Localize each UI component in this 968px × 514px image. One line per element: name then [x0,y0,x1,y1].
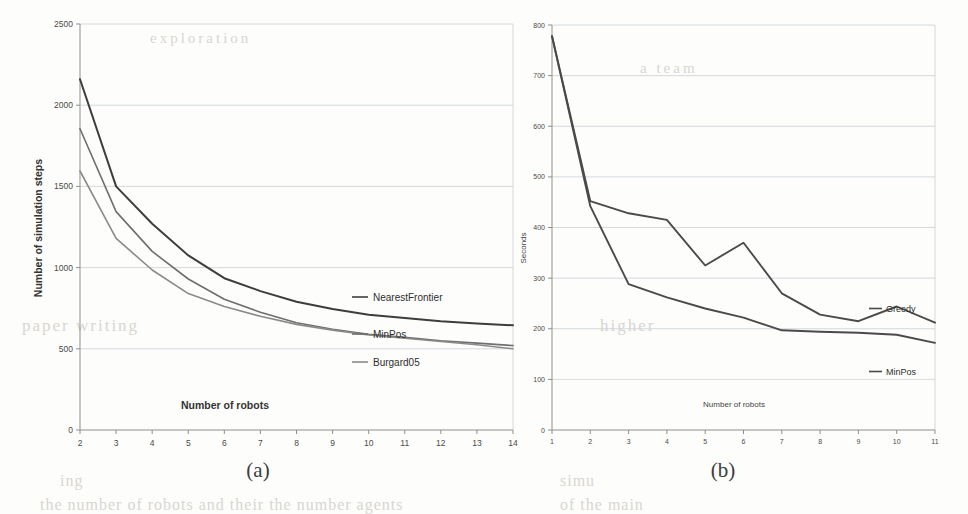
x-tick-label-7: 7 [258,438,263,448]
x-tick-label-7: 7 [780,438,784,445]
x-tick-label-5: 5 [703,438,707,445]
y-tick-label-700: 700 [533,72,545,79]
x-tick-label-3: 3 [114,438,119,448]
x-tick-label-6: 6 [742,438,746,445]
x-tick-label-3: 3 [627,438,631,445]
x-axis-title: Number of robots [703,400,765,409]
caption-a: (a) [228,458,288,483]
x-axis-title: Number of robots [181,399,269,411]
x-tick-label-11: 11 [931,438,938,445]
series-line-nearestfrontier [80,79,513,325]
legend-item-burgard05: Burgard05 [352,357,420,368]
x-tick-label-11: 11 [400,438,409,448]
y-tick-label-600: 600 [533,123,545,130]
caption-b: (b) [693,458,753,483]
x-tick-label-2: 2 [588,438,592,445]
x-tick-label-4: 4 [665,438,669,445]
y-tick-label-800: 800 [533,22,545,29]
y-tick-label-500: 500 [533,173,545,180]
x-tick-label-10: 10 [893,438,901,445]
legend-item-nearestfrontier: NearestFrontier [352,292,443,303]
x-tick-label-8: 8 [294,438,299,448]
x-tick-label-9: 9 [330,438,335,448]
legend-label-nearestfrontier: NearestFrontier [373,292,443,303]
chart-a-canvas: 05001000150020002500234567891011121314Ne… [0,0,520,460]
series-line-greedy-0 [552,36,935,323]
y-tick-label-1500: 1500 [54,181,73,191]
y-axis-title: Number of simulation steps [32,159,44,297]
legend-label-minpos: MinPos [886,367,917,377]
figure-b: 01002003004005006007008001234567891011Gr… [484,0,968,512]
legend-item-minpos: MinPos [352,329,406,340]
y-tick-label-0: 0 [541,427,545,434]
y-tick-label-300: 300 [533,275,545,282]
legend-label-minpos: MinPos [373,329,406,340]
x-tick-label-12: 12 [436,438,446,448]
y-tick-label-2000: 2000 [54,100,73,110]
legend-item-greedy: Greedy [869,304,916,314]
legend-item-minpos: MinPos [869,367,917,377]
figure-a: 05001000150020002500234567891011121314Ne… [0,0,520,512]
legend-label-burgard05: Burgard05 [373,357,420,368]
y-tick-label-500: 500 [59,344,73,354]
x-tick-label-9: 9 [856,438,860,445]
x-tick-label-1: 1 [550,438,554,445]
series-line-minpos-1 [552,36,935,343]
x-tick-label-6: 6 [222,438,227,448]
x-tick-label-8: 8 [818,438,822,445]
series-line-minpos [80,129,513,346]
y-tick-label-400: 400 [533,224,545,231]
y-tick-label-2500: 2500 [54,19,73,29]
y-tick-label-0: 0 [68,425,73,435]
x-tick-label-4: 4 [150,438,155,448]
x-tick-label-2: 2 [78,438,83,448]
y-axis-title: Seconds [519,232,528,263]
chart-b-canvas: 01002003004005006007008001234567891011Gr… [484,0,968,460]
y-tick-label-200: 200 [533,325,545,332]
y-tick-label-1000: 1000 [54,263,73,273]
x-tick-label-13: 13 [472,438,482,448]
legend-label-greedy: Greedy [886,304,916,314]
x-tick-label-5: 5 [186,438,191,448]
y-tick-label-100: 100 [533,376,545,383]
x-tick-label-10: 10 [364,438,374,448]
